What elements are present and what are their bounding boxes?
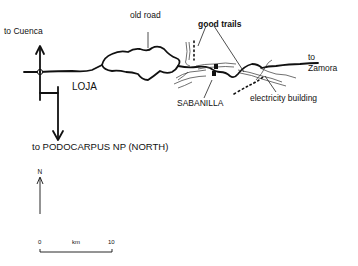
main-road-west <box>24 65 102 72</box>
scale-bar: 0 km 10 <box>38 239 115 252</box>
scale-unit: km <box>72 239 80 245</box>
sketch-map: to Cuenca old road good trails LOJA SABA… <box>0 0 358 266</box>
label-sabanilla: SABANILLA <box>177 98 224 108</box>
good-trails-leader-right <box>214 26 244 72</box>
old-road-loop <box>102 47 180 80</box>
scale-line <box>40 249 112 252</box>
sabanilla-leader <box>204 80 212 98</box>
label-loja: LOJA <box>72 81 97 92</box>
label-good-trails: good trails <box>198 19 242 29</box>
label-to: to <box>308 52 315 62</box>
label-old-road: old road <box>130 10 161 20</box>
scale-end: 10 <box>108 239 115 245</box>
north-arrow: N <box>37 168 43 214</box>
north-label: N <box>38 168 43 175</box>
sabanilla-building-1 <box>214 64 218 69</box>
label-to-podocarpus: to PODOCARPUS NP (NORTH) <box>32 141 168 152</box>
good-trails-leader-left <box>198 26 206 46</box>
label-to-cuenca: to Cuenca <box>4 26 43 36</box>
scale-start: 0 <box>38 239 42 245</box>
trail-dotted-south <box>234 76 264 94</box>
label-zamora: Zamora <box>308 63 338 73</box>
sabanilla-building-2 <box>212 71 216 76</box>
label-electricity-building: electricity building <box>250 93 317 103</box>
